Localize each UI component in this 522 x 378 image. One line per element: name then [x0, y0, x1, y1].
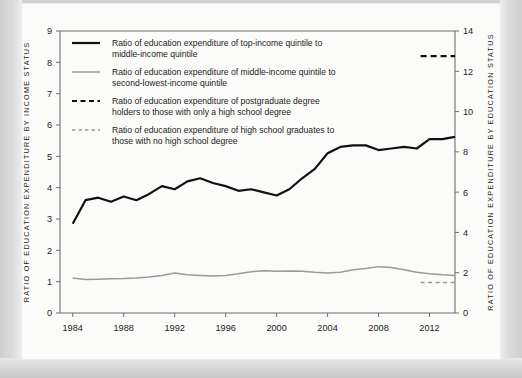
x-axis-tick-label: 1984 [63, 323, 83, 333]
y-axis-left-tick-label: 0 [47, 308, 52, 318]
y-axis-left-tick-label: 7 [47, 89, 52, 99]
y-axis-left-tick-label: 8 [47, 58, 52, 68]
y-axis-right-tick-label: 6 [463, 188, 468, 198]
legend-label-2-line-2: holders to those with only a high school… [112, 107, 291, 117]
x-axis-tick-label: 2012 [419, 323, 439, 333]
legend-label-0-line-1: Ratio of education expenditure of top-in… [112, 38, 322, 48]
x-axis-tick-label: 1992 [164, 323, 184, 333]
x-axis-tick-label: 1988 [113, 323, 133, 333]
legend-label-2-line-1: Ratio of education expenditure of postgr… [112, 96, 320, 106]
y-axis-left-ticks: 0123456789 [47, 26, 60, 318]
y-axis-right-tick-label: 14 [463, 26, 473, 36]
chart-legend: Ratio of education expenditure of top-in… [72, 38, 336, 146]
chart-figure: 0123456789 02468101214 19841988199219962… [0, 0, 522, 378]
x-axis-tick-label: 2000 [266, 323, 286, 333]
x-axis-tick-label: 2008 [368, 323, 388, 333]
chart-series-layer [73, 56, 455, 282]
y-axis-left-tick-label: 4 [47, 183, 52, 193]
page-background: 0123456789 02468101214 19841988199219962… [0, 0, 522, 378]
y-axis-left-tick-label: 3 [47, 214, 52, 224]
x-axis-tick-label: 2004 [317, 323, 337, 333]
legend-label-3-line-1: Ratio of education expenditure of high s… [112, 125, 334, 135]
series-line-1 [73, 267, 455, 280]
y-axis-right-tick-label: 2 [463, 268, 468, 278]
y-axis-left-tick-label: 9 [47, 26, 52, 36]
y-axis-left-tick-label: 5 [47, 152, 52, 162]
y-axis-right-tick-label: 10 [463, 107, 473, 117]
y-axis-right-tick-label: 4 [463, 228, 468, 238]
y-axis-left-tick-label: 2 [47, 246, 52, 256]
y-axis-left-tick-label: 1 [47, 277, 52, 287]
y-axis-right-title: RATIO OF EDUCATION EXPENDITURE BY EDUCAT… [486, 33, 495, 310]
legend-label-1-line-2: second-lowest-income quintile [112, 78, 227, 88]
y-axis-right-tick-label: 12 [463, 67, 473, 77]
y-axis-left-title: RATIO OF EDUCATION EXPENDITURE BY INCOME… [22, 42, 31, 303]
legend-label-1-line-1: Ratio of education expenditure of middle… [112, 67, 336, 77]
x-axis-ticks: 19841988199219962000200420082012 [63, 313, 440, 333]
y-axis-right-ticks: 02468101214 [455, 26, 473, 318]
legend-label-3-line-2: those with no high school degree [112, 136, 238, 146]
y-axis-right-tick-label: 8 [463, 147, 468, 157]
x-axis-tick-label: 1996 [215, 323, 235, 333]
y-axis-right-tick-label: 0 [463, 308, 468, 318]
y-axis-left-tick-label: 6 [47, 120, 52, 130]
series-line-0 [73, 137, 455, 224]
legend-label-0-line-2: middle-income quintile [112, 49, 198, 59]
